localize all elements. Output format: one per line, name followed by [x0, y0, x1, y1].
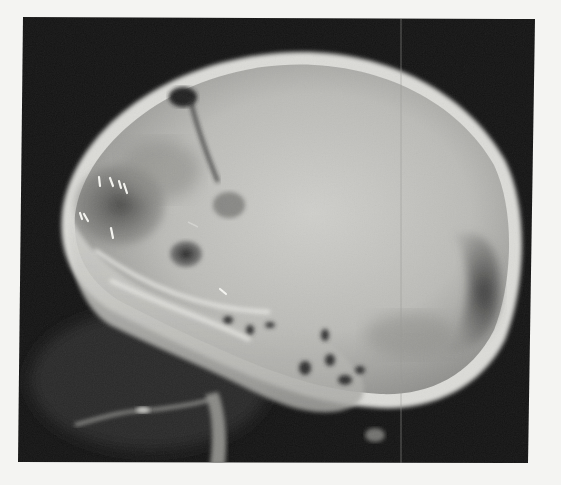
radiograph-page: Lateral skull radiograph (X-ray film) sh…: [0, 0, 561, 485]
radiograph-svg: [0, 0, 561, 485]
film-grain: [0, 0, 561, 485]
